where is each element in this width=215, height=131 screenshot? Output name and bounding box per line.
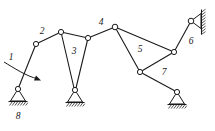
label-link-8: 8 (16, 111, 21, 121)
joint-h-right-middle (171, 49, 176, 54)
joint-g-lower-left (137, 69, 142, 74)
joint-j-wall-pin (188, 18, 194, 24)
joint-b-crank-coupler (33, 41, 38, 46)
link-4-upper-bar (88, 27, 115, 38)
link-5-bottom-side (140, 52, 174, 72)
link-7-rocker (140, 72, 177, 92)
link-5-top-side (115, 27, 174, 52)
kinematic-diagram-root: 1 2 3 4 5 6 7 8 (0, 0, 215, 131)
link-3-right-leg (76, 38, 88, 88)
link-3-left-leg (61, 32, 74, 88)
joint-a-crank-ground (15, 86, 20, 91)
link-3-top-bar (61, 32, 88, 38)
label-link-6: 6 (189, 36, 194, 46)
link-5-left-side (115, 27, 140, 72)
wall-hatching (202, 9, 206, 34)
joint-i-rocker-ground (174, 89, 179, 94)
label-link-1: 1 (9, 52, 14, 62)
label-link-5: 5 (138, 44, 143, 54)
ground-hatching (10, 102, 28, 106)
joint-e-ternary-ground (72, 87, 77, 92)
label-link-7: 7 (162, 67, 168, 77)
link-1-crank (18, 44, 36, 89)
joint-c-left-ternary-top (58, 29, 63, 34)
label-link-2: 2 (40, 26, 45, 36)
joint-f-top-center (112, 24, 118, 30)
ground-hatching (169, 105, 187, 109)
ground-hatching (67, 103, 85, 107)
rotation-arrowhead (34, 76, 41, 81)
label-link-4: 4 (99, 17, 104, 27)
linkage-diagram-svg: 1 2 3 4 5 6 7 8 (0, 0, 215, 131)
joint-d-right-ternary-top (85, 35, 90, 40)
rotation-arc (4, 62, 38, 79)
label-link-3: 3 (71, 46, 77, 56)
